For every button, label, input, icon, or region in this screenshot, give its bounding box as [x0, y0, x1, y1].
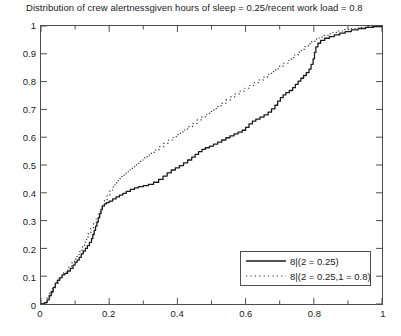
y-tick-label: 0.9	[23, 48, 36, 59]
x-tick-label: 1	[380, 308, 385, 319]
x-tick-label: 0.8	[308, 308, 321, 319]
chart-title: Distribution of crew alertnessgiven hour…	[26, 2, 363, 13]
y-tick-label: 1	[31, 20, 36, 31]
y-tick-label: 0.8	[23, 76, 36, 87]
y-axis-tick-labels: 00.10.20.30.40.50.60.70.80.91	[0, 25, 36, 305]
x-axis-tick-labels: 00.20.40.60.81	[40, 308, 383, 322]
legend: 8|(2 = 0.25) 8|(2 = 0.25,1 = 0.8)	[240, 251, 371, 286]
x-tick-label: 0	[37, 308, 42, 319]
legend-item-1: 8|(2 = 0.25,1 = 0.8)	[245, 269, 371, 283]
x-tick-label: 0.2	[102, 308, 115, 319]
y-tick-label: 0.4	[23, 188, 36, 199]
y-tick-label: 0.5	[23, 160, 36, 171]
x-tick-label: 0.6	[239, 308, 252, 319]
legend-label-1: 8|(2 = 0.25,1 = 0.8)	[290, 271, 371, 282]
legend-line-dotted-icon	[245, 271, 287, 281]
y-tick-label: 0.3	[23, 216, 36, 227]
y-tick-label: 0.2	[23, 244, 36, 255]
y-tick-label: 0.6	[23, 132, 36, 143]
x-tick-label: 0.4	[171, 308, 184, 319]
y-tick-label: 0.1	[23, 272, 36, 283]
y-tick-label: 0	[31, 300, 36, 311]
legend-label-0: 8|(2 = 0.25)	[290, 256, 339, 267]
legend-item-0: 8|(2 = 0.25)	[245, 254, 339, 268]
chart-figure: Distribution of crew alertnessgiven hour…	[0, 0, 401, 336]
y-tick-label: 0.7	[23, 104, 36, 115]
legend-line-solid-icon	[245, 256, 287, 266]
